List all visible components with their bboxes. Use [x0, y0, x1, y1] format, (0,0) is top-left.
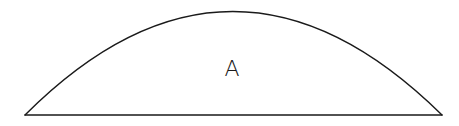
- region-label-a: A: [224, 56, 239, 81]
- segment-diagram: A: [0, 0, 459, 126]
